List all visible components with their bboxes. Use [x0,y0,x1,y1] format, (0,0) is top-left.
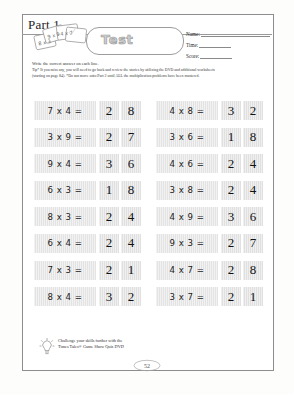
problem-expression: 4 x 8 = [156,101,218,120]
answer-digit-tens[interactable]: 3 [99,154,119,173]
problem-expression: 3 x 7 = [156,287,218,306]
answer-boxes: 2 4 [99,207,141,226]
problem-column-left: 7 x 4 = 2 8 3 x 9 = 2 7 9 x 4 = 3 6 [34,100,144,313]
problem-row: 7 x 4 = 2 8 [34,100,144,121]
answer-digit-ones[interactable]: 4 [243,154,263,173]
answer-boxes: 2 4 [99,234,141,253]
problem-expression: 9 x 4 = [34,154,96,173]
problem-expression: 7 x 4 = [34,101,96,120]
answer-digit-tens[interactable]: 2 [221,181,241,200]
problem-row: 4 x 8 = 3 2 [156,100,266,121]
footer-note: Challenge your skills further with the T… [58,338,208,350]
problem-row: 6 x 3 = 1 8 [34,180,144,201]
field-row-time[interactable]: Time: [186,40,270,48]
answer-digit-ones[interactable]: 8 [121,101,141,120]
answer-boxes: 2 8 [99,101,141,120]
answer-digit-tens[interactable]: 3 [221,101,241,120]
field-row-name[interactable]: Name: [186,29,270,37]
problem-row: 6 x 4 = 2 4 [34,233,144,254]
answer-digit-tens[interactable]: 3 [221,207,241,226]
score-label: Score: [186,53,199,59]
problem-expression: 7 x 3 = [34,261,96,280]
answer-digit-ones[interactable]: 2 [243,101,263,120]
problem-row: 4 x 7 = 2 8 [156,260,266,281]
name-input[interactable] [201,30,270,37]
answer-boxes: 1 8 [221,128,263,147]
test-banner-label: Test [101,32,133,47]
problem-row: 4 x 6 = 2 4 [156,153,266,174]
answer-digit-ones[interactable]: 7 [243,234,263,253]
flash-cards-illustration: 8 x 3 9 x 9 4 x 7 [33,23,89,57]
problem-row: 3 x 6 = 1 8 [156,127,266,148]
problem-grid: 7 x 4 = 2 8 3 x 9 = 2 7 9 x 4 = 3 6 [34,100,266,313]
problem-column-right: 4 x 8 = 3 2 3 x 6 = 1 8 4 x 6 = 2 4 [156,100,266,313]
problem-row: 8 x 3 = 2 4 [34,206,144,227]
problem-expression: 8 x 4 = [34,287,96,306]
answer-digit-tens[interactable]: 3 [99,287,119,306]
answer-digit-tens[interactable]: 2 [221,154,241,173]
worksheet-page: Part 1 Test 8 x 3 9 x 9 4 x 7 Name: [0,0,294,394]
time-label: Time: [186,42,198,48]
problem-row: 3 x 8 = 2 4 [156,180,266,201]
answer-digit-ones[interactable]: 4 [121,207,141,226]
problem-row: 9 x 3 = 2 7 [156,233,266,254]
field-row-score[interactable]: Score: [186,51,270,59]
answer-digit-tens[interactable]: 2 [221,261,241,280]
answer-digit-ones[interactable]: 6 [243,207,263,226]
answer-digit-tens[interactable]: 2 [99,128,119,147]
answer-digit-ones[interactable]: 1 [121,261,141,280]
answer-digit-ones[interactable]: 8 [121,181,141,200]
name-label: Name: [186,31,200,37]
answer-digit-ones[interactable]: 6 [121,154,141,173]
page-number-badge: 52 [131,358,163,373]
time-input[interactable] [199,41,231,48]
answer-digit-tens[interactable]: 2 [99,101,119,120]
problem-expression: 6 x 3 = [34,181,96,200]
answer-boxes: 2 8 [221,261,263,280]
answer-digit-tens[interactable]: 2 [221,287,241,306]
problem-row: 9 x 4 = 3 6 [34,153,144,174]
problem-expression: 4 x 7 = [156,261,218,280]
problem-expression: 8 x 3 = [34,207,96,226]
answer-digit-ones[interactable]: 8 [243,128,263,147]
score-input[interactable] [200,52,232,59]
answer-boxes: 2 4 [221,181,263,200]
answer-digit-ones[interactable]: 4 [243,181,263,200]
answer-boxes: 2 1 [99,261,141,280]
answer-boxes: 2 1 [221,287,263,306]
problem-expression: 4 x 6 = [156,154,218,173]
answer-digit-ones[interactable]: 4 [121,234,141,253]
answer-boxes: 3 6 [221,207,263,226]
answer-boxes: 2 7 [221,234,263,253]
answer-digit-ones[interactable]: 1 [243,287,263,306]
answer-digit-tens[interactable]: 2 [221,234,241,253]
answer-digit-tens[interactable]: 2 [99,261,119,280]
answer-digit-tens[interactable]: 1 [221,128,241,147]
problem-expression: 3 x 9 = [34,128,96,147]
answer-boxes: 1 8 [99,181,141,200]
student-info-fields: Name: Time: Score: [186,29,270,62]
answer-boxes: 2 4 [221,154,263,173]
answer-digit-ones[interactable]: 8 [243,261,263,280]
answer-digit-tens[interactable]: 2 [99,234,119,253]
answer-boxes: 2 7 [99,128,141,147]
problem-expression: 6 x 4 = [34,234,96,253]
problem-row: 8 x 4 = 3 2 [34,286,144,307]
problem-row: 3 x 7 = 2 1 [156,286,266,307]
problem-expression: 9 x 3 = [156,234,218,253]
page-number: 52 [131,358,163,373]
problem-expression: 3 x 8 = [156,181,218,200]
answer-digit-tens[interactable]: 2 [99,207,119,226]
problem-row: 7 x 3 = 2 1 [34,260,144,281]
lightbulb-icon [38,336,56,358]
footer-line-2: Times Tales® Game Show Quiz DVD [58,344,208,350]
problem-expression: 3 x 6 = [156,128,218,147]
answer-digit-ones[interactable]: 2 [121,287,141,306]
answer-digit-tens[interactable]: 1 [99,181,119,200]
answer-boxes: 3 2 [99,287,141,306]
answer-boxes: 3 2 [221,101,263,120]
problem-row: 4 x 9 = 3 6 [156,206,266,227]
answer-boxes: 3 6 [99,154,141,173]
problem-expression: 4 x 9 = [156,207,218,226]
answer-digit-ones[interactable]: 7 [121,128,141,147]
